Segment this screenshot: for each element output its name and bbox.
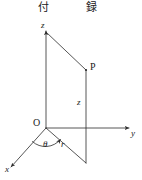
- x-axis-label: x: [5, 165, 9, 174]
- segment-ztop-to-p: [46, 32, 86, 70]
- point-p-marker: [85, 69, 87, 71]
- z-axis-label: z: [41, 21, 45, 30]
- y-axis-label: y: [131, 129, 135, 138]
- point-p-label: P: [90, 62, 96, 72]
- height-z-label: z: [77, 98, 81, 107]
- theta-angle-label: θ: [43, 140, 47, 149]
- radius-r-label: r: [61, 140, 65, 149]
- x-axis-line: [11, 128, 46, 167]
- origin-label: O: [33, 118, 40, 128]
- page-root: 付 録 z y x O P z θ r: [0, 0, 142, 180]
- cylindrical-coordinates-figure: [0, 0, 142, 180]
